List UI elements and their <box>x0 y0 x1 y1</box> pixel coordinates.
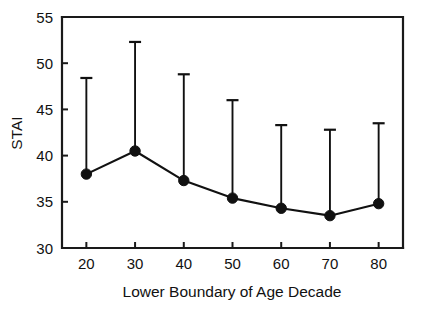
x-tick-label: 70 <box>322 255 339 272</box>
y-tick-label: 30 <box>36 240 53 257</box>
y-tick-label: 50 <box>36 55 53 72</box>
data-point-marker <box>130 146 140 156</box>
chart-figure: 303540455055 20304050607080 STAI Lower B… <box>0 0 421 311</box>
data-point-marker <box>227 193 237 203</box>
data-point-marker <box>276 203 286 213</box>
x-axis-title: Lower Boundary of Age Decade <box>123 283 342 300</box>
chart-canvas: 303540455055 20304050607080 STAI Lower B… <box>0 0 421 311</box>
data-point-marker <box>325 210 335 220</box>
x-tick-label: 40 <box>175 255 192 272</box>
y-tick-label: 35 <box>36 193 53 210</box>
x-tick-label: 80 <box>370 255 387 272</box>
x-tick-label: 50 <box>224 255 241 272</box>
data-point-marker <box>373 198 383 208</box>
x-tick-label: 20 <box>78 255 95 272</box>
y-axis-title: STAI <box>8 116 25 149</box>
data-point-marker <box>81 169 91 179</box>
y-tick-label: 55 <box>36 9 53 26</box>
data-point-marker <box>179 175 189 185</box>
y-tick-label: 40 <box>36 147 53 164</box>
x-tick-label: 60 <box>273 255 290 272</box>
x-tick-label: 30 <box>127 255 144 272</box>
y-tick-label: 45 <box>36 101 53 118</box>
